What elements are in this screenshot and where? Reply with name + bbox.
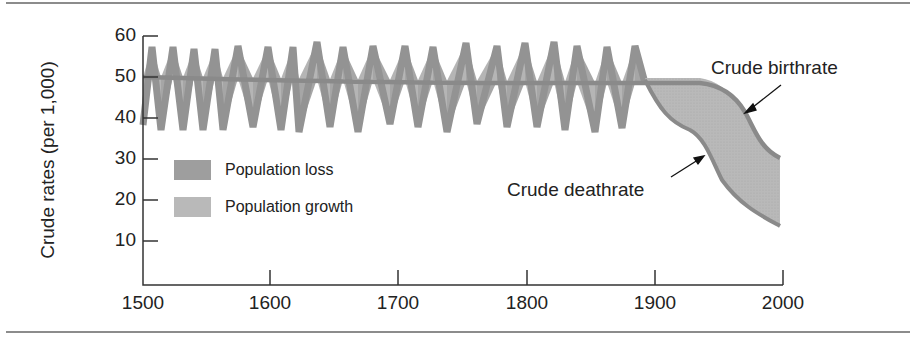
x-tick-1800: 1800 [497,292,557,314]
y-tick-50: 50 [96,65,136,87]
deathrate-oscillation [143,42,645,132]
y-tick-60: 60 [96,24,136,46]
birthrate-annotation: Crude birthrate [711,57,838,79]
y-tick-40: 40 [96,106,136,128]
legend-swatch-loss [174,160,211,180]
y-tick-20: 20 [96,188,136,210]
x-tick-2000: 2000 [753,292,813,314]
legend-label-growth: Population growth [225,198,353,216]
y-axis-label: Crude rates (per 1,000) [37,61,59,259]
legend-swatch-growth [174,197,211,217]
y-tick-30: 30 [96,147,136,169]
population-growth-area [645,78,780,226]
legend-item-growth: Population growth [174,197,353,217]
deathrate-annotation: Crude deathrate [507,179,644,201]
x-tick-1900: 1900 [625,292,685,314]
x-tick-1600: 1600 [240,292,300,314]
y-tick-10: 10 [96,229,136,251]
legend-item-loss: Population loss [174,160,334,180]
legend-label-loss: Population loss [225,161,334,179]
x-tick-1700: 1700 [368,292,428,314]
x-tick-1500: 1500 [113,292,173,314]
